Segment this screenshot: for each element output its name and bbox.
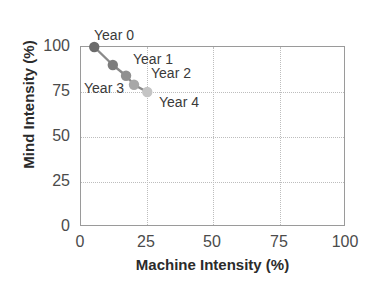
plot-area: Year 0 Year 1 Year 2 Year 3 Year 4	[80, 46, 345, 226]
annotation-year-4: Year 4	[159, 94, 199, 110]
data-point-year-4	[142, 87, 152, 97]
data-point-year-0	[89, 42, 99, 52]
x-tick-100: 100	[322, 233, 368, 251]
annotation-year-2: Year 2	[151, 65, 191, 81]
figure-top-margin	[0, 0, 381, 9]
annotation-year-0: Year 0	[94, 27, 134, 43]
y-axis-title: Mind Intensity (%)	[20, 15, 37, 195]
x-tick-0: 0	[57, 233, 103, 251]
x-tick-50: 50	[189, 233, 235, 251]
chart-figure: 100 75 50 25 0 0 25 50 75 100 Machine In…	[0, 0, 381, 284]
x-tick-75: 75	[256, 233, 302, 251]
data-point-year-3	[129, 80, 139, 90]
data-point-year-1	[108, 60, 118, 70]
data-series-layer	[81, 47, 346, 227]
x-axis-title: Machine Intensity (%)	[80, 256, 345, 273]
x-tick-25: 25	[123, 233, 169, 251]
annotation-year-3: Year 3	[84, 80, 124, 96]
